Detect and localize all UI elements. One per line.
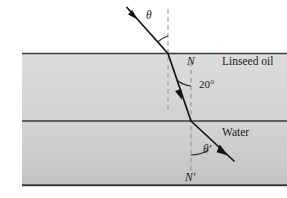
theta-angle-arc xyxy=(158,36,169,42)
linseed-oil-medium-label: Linseed oil xyxy=(222,56,273,68)
theta-incident-label: θ xyxy=(146,10,152,22)
water-medium-label: Water xyxy=(222,127,249,139)
oil-angle-value-label: 20° xyxy=(199,79,214,90)
refraction-diagram xyxy=(0,0,287,198)
figure-canvas: θ N 20° Linseed oil Water θ′ N′ xyxy=(0,0,287,198)
upper-normal-label: N xyxy=(187,56,195,68)
lower-normal-label: N′ xyxy=(185,172,195,184)
theta-prime-label: θ′ xyxy=(203,144,211,156)
